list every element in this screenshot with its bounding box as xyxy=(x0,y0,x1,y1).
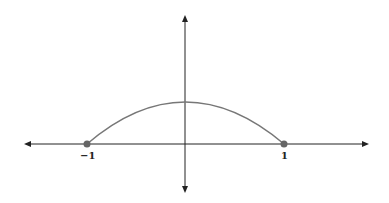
endpoint-right xyxy=(281,141,288,148)
up-arrow-icon xyxy=(182,15,188,22)
graph-canvas: −1 1 xyxy=(0,0,389,203)
y-axis xyxy=(182,15,188,193)
endpoint-left xyxy=(84,141,91,148)
right-arrow-icon xyxy=(362,141,369,147)
left-arrow-icon xyxy=(24,141,31,147)
down-arrow-icon xyxy=(182,186,188,193)
tick-label-pos1: 1 xyxy=(281,150,288,161)
x-axis xyxy=(24,141,369,147)
tick-label-neg1: −1 xyxy=(80,150,95,161)
